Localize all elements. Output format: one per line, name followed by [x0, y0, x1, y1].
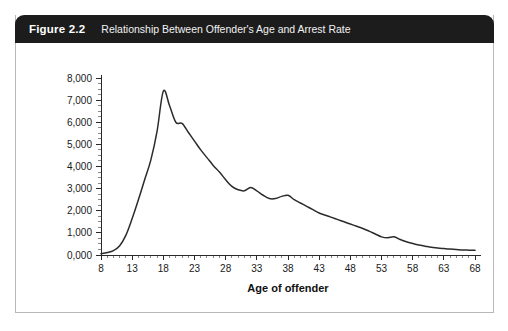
x-axis-title: Age of offender — [247, 282, 329, 294]
figure-number: Figure 2.2 — [29, 23, 85, 35]
y-tick-label: 0,000 — [67, 250, 92, 261]
arrest-rate-curve — [101, 90, 475, 253]
x-tick-label: 33 — [251, 263, 263, 274]
x-axis-ticks: 8131823283338434853586368 — [98, 255, 481, 274]
y-tick-label: 1,000 — [67, 227, 92, 238]
y-tick-label: 4,000 — [67, 161, 92, 172]
chart-plot-area: 0,0001,0002,0003,0004,0005,0006,0007,000… — [16, 43, 493, 312]
x-tick-label: 28 — [220, 263, 232, 274]
y-tick-label: 8,000 — [67, 73, 92, 84]
y-tick-label: 3,000 — [67, 183, 92, 194]
x-tick-label: 13 — [127, 263, 139, 274]
y-tick-label: 7,000 — [67, 95, 92, 106]
y-tick-label: 6,000 — [67, 117, 92, 128]
figure-title: Relationship Between Offender's Age and … — [101, 23, 350, 35]
figure-header: Figure 2.2 Relationship Between Offender… — [15, 15, 494, 43]
x-tick-label: 43 — [314, 263, 326, 274]
y-tick-label: 5,000 — [67, 139, 92, 150]
x-tick-label: 63 — [438, 263, 450, 274]
x-tick-label: 23 — [189, 263, 201, 274]
x-tick-label: 53 — [376, 263, 388, 274]
x-tick-label: 38 — [282, 263, 294, 274]
x-tick-label: 48 — [345, 263, 357, 274]
arrest-rate-line-chart: 0,0001,0002,0003,0004,0005,0006,0007,000… — [16, 43, 493, 312]
x-tick-label: 68 — [469, 263, 481, 274]
x-tick-label: 8 — [98, 263, 104, 274]
y-axis-ticks: 0,0001,0002,0003,0004,0005,0006,0007,000… — [67, 73, 101, 261]
x-tick-label: 18 — [158, 263, 170, 274]
y-tick-label: 2,000 — [67, 205, 92, 216]
x-tick-label: 58 — [407, 263, 419, 274]
